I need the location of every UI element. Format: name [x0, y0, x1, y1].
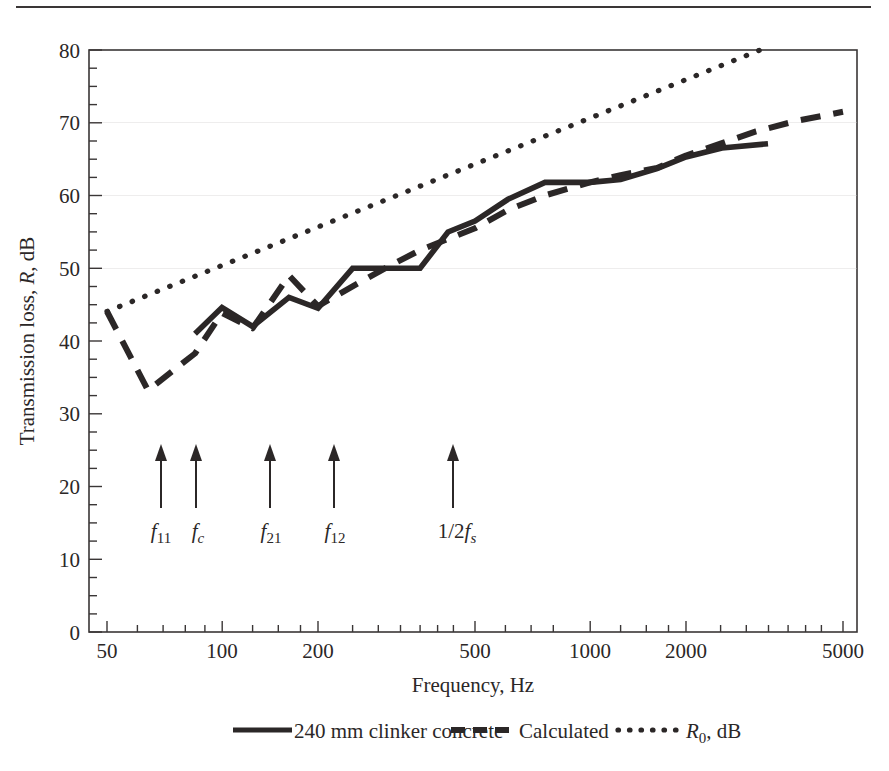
x-axis-ticks — [107, 621, 843, 632]
y-tick-label-80: 80 — [59, 39, 80, 63]
chart-canvas: 80 70 60 50 40 30 20 10 0 Transmission l… — [0, 0, 889, 771]
annotation-labels: f11 fc f21 f12 1/2fs — [151, 519, 477, 546]
y-axis-ticks — [89, 50, 102, 632]
annotation-arrow-half-fs — [447, 444, 459, 508]
y-axis-title: Transmission loss, R, dB — [15, 237, 39, 446]
y-axis-tick-labels: 80 70 60 50 40 30 20 10 0 — [59, 39, 80, 645]
x-tick-label-200: 200 — [302, 639, 334, 663]
annotation-arrow-fc — [190, 444, 202, 508]
x-tick-label-100: 100 — [206, 639, 238, 663]
x-tick-label-1000: 1000 — [569, 639, 611, 663]
annotation-arrow-f12 — [328, 444, 340, 508]
annotation-label-f12: f12 — [325, 519, 346, 546]
series-calculated-dashed — [107, 112, 843, 391]
y-tick-label-20: 20 — [59, 475, 80, 499]
annotation-arrow-f11 — [155, 444, 167, 508]
x-tick-label-2000: 2000 — [665, 639, 707, 663]
series-clinker-concrete-solid — [195, 144, 768, 334]
y-tick-label-60: 60 — [59, 184, 80, 208]
legend: 240 mm clinker concrete Calculated R0, d… — [233, 719, 741, 746]
annotation-label-f11: f11 — [151, 519, 171, 546]
annotation-label-f21: f21 — [261, 519, 282, 546]
legend-label-clinker-concrete: 240 mm clinker concrete — [294, 719, 503, 743]
x-axis-title: Frequency, Hz — [412, 673, 534, 697]
series-r0-dotted — [107, 50, 760, 312]
x-axis-tick-labels: 50 100 200 500 1000 2000 5000 — [97, 639, 865, 663]
annotation-label-fc: fc — [192, 519, 205, 546]
y-axis-title-group: Transmission loss, R, dB — [15, 237, 39, 446]
x-tick-label-500: 500 — [459, 639, 491, 663]
y-tick-label-30: 30 — [59, 402, 80, 426]
legend-label-calculated: Calculated — [519, 719, 609, 743]
y-tick-label-40: 40 — [59, 330, 80, 354]
annotation-arrows — [155, 444, 459, 508]
x-tick-label-5000: 5000 — [822, 639, 864, 663]
x-tick-label-50: 50 — [97, 639, 118, 663]
y-tick-label-70: 70 — [59, 111, 80, 135]
y-tick-label-0: 0 — [70, 621, 81, 645]
annotation-arrow-f21 — [264, 444, 276, 508]
figure-container: 80 70 60 50 40 30 20 10 0 Transmission l… — [0, 0, 889, 771]
y-tick-label-10: 10 — [59, 548, 80, 572]
legend-label-r0-db: R0, dB — [685, 719, 741, 746]
y-tick-label-50: 50 — [59, 257, 80, 281]
annotation-label-half-fs: 1/2fs — [438, 519, 477, 546]
